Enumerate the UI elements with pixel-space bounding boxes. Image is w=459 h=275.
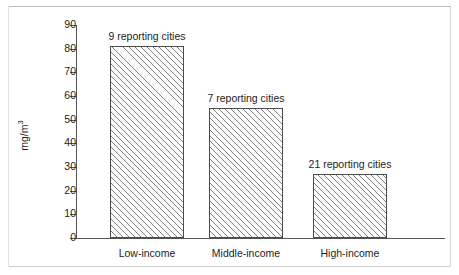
- y-axis-tick-label: 80: [50, 43, 76, 54]
- y-axis-tick-label: 50: [50, 114, 76, 125]
- bar: [110, 46, 184, 238]
- y-axis-tick-label-row: 90: [36, 19, 76, 30]
- plot-area: mg/m3 0102030405060708090 9 reporting ci…: [0, 0, 459, 275]
- x-axis-category-label: High-income: [280, 247, 420, 259]
- x-axis-line: [76, 238, 445, 239]
- bar-annotation: 7 reporting cities: [166, 92, 326, 104]
- bar: [313, 174, 387, 238]
- y-axis-tick-label-row: 10: [36, 208, 76, 219]
- y-axis-tick-label-row: 40: [36, 137, 76, 148]
- y-axis-title: mg/m3: [19, 106, 30, 166]
- y-axis-tick-label-row: 30: [36, 161, 76, 172]
- y-axis-tick-label: 10: [50, 208, 76, 219]
- y-axis-line: [76, 25, 77, 239]
- y-axis-tick-label: 60: [50, 90, 76, 101]
- y-axis-tick-label: 90: [50, 19, 76, 30]
- y-axis-tick-label-row: 0: [36, 232, 76, 243]
- y-axis-tick-label-row: 20: [36, 185, 76, 196]
- y-axis-tick-label-row: 50: [36, 114, 76, 125]
- y-axis-tick-label: 20: [50, 185, 76, 196]
- bar-annotation: 9 reporting cities: [67, 30, 227, 42]
- y-axis-tick-label: 40: [50, 137, 76, 148]
- chart-figure: mg/m3 0102030405060708090 9 reporting ci…: [0, 0, 459, 275]
- y-axis-tick-label: 70: [50, 66, 76, 77]
- y-axis-tick-label-row: 70: [36, 66, 76, 77]
- y-axis-tick-label-row: 80: [36, 43, 76, 54]
- y-axis-tick-label: 0: [50, 232, 76, 243]
- y-axis-tick-label-row: 60: [36, 90, 76, 101]
- y-axis-tick-label: 30: [50, 161, 76, 172]
- bar-annotation: 21 reporting cities: [270, 158, 430, 170]
- bar: [209, 108, 283, 238]
- y-axis-title-text: mg/m: [18, 124, 30, 150]
- y-axis-title-exponent: 3: [16, 120, 25, 124]
